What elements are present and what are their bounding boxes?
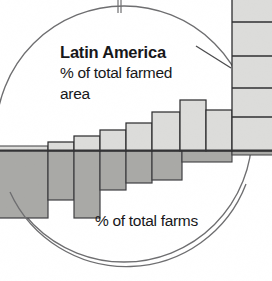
y-axis-label-line2: area [60, 85, 90, 103]
x-axis-label: % of total farms [95, 212, 198, 230]
clipped-caption [0, 272, 272, 281]
region-title: Latin America [60, 43, 166, 62]
y-axis-label-line1: % of total farmed [60, 64, 172, 82]
latin-america-figure: Latin America % of total farmed area % o… [0, 0, 272, 281]
